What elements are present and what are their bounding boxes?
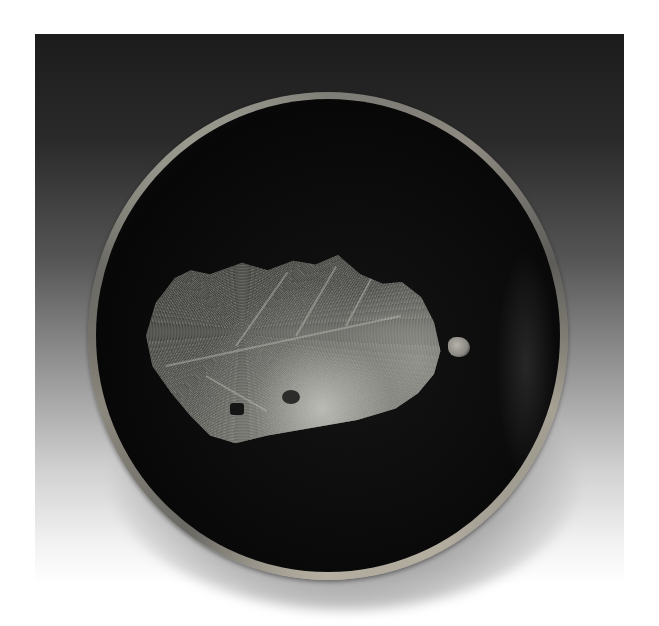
leaf-vein xyxy=(235,272,288,347)
leaf-hole xyxy=(282,390,300,404)
leaf-vein xyxy=(166,315,401,367)
leaf-vein xyxy=(345,264,380,327)
leaf-fragment xyxy=(448,337,470,357)
leaf-vein xyxy=(295,266,337,336)
leaf-hole xyxy=(230,403,244,415)
bowl-interior xyxy=(96,99,560,572)
leaf-pattern xyxy=(146,255,466,447)
glaze-speckle xyxy=(496,249,556,479)
